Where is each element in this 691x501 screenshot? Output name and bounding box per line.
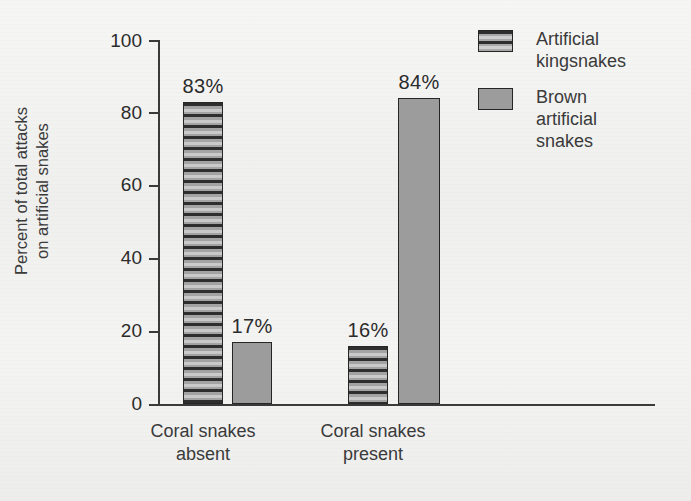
y-tick-label-40: 40: [88, 248, 142, 267]
legend-swatch-striped-icon: [478, 30, 513, 52]
y-axis-title: Percent of total attacks on artificial s…: [11, 0, 53, 401]
y-axis-title-line-2: on artificial snakes: [32, 0, 53, 401]
legend-label-brown-artificial-snakes: Brown artificial snakes: [536, 86, 597, 152]
x-group-label-present: Coral snakes present: [288, 420, 458, 466]
bar-brown-absent[interactable]: [232, 342, 272, 404]
bar-value-17: 17%: [212, 316, 292, 336]
bar-value-84: 84%: [379, 72, 459, 92]
y-tick-label-20: 20: [88, 321, 142, 340]
legend-item-artificial-kingsnakes[interactable]: Artificial kingsnakes: [478, 28, 688, 72]
legend-swatch-solid-icon: [478, 88, 513, 110]
y-tick-label-0: 0: [88, 394, 142, 413]
y-tick-mark-60: [149, 185, 158, 187]
bar-kingsnakes-present[interactable]: [348, 346, 388, 404]
y-tick-label-100: 100: [88, 31, 142, 50]
legend-label-artificial-kingsnakes: Artificial kingsnakes: [536, 28, 626, 72]
y-axis-title-line-1: Percent of total attacks: [11, 0, 32, 401]
y-axis-line: [158, 40, 160, 406]
y-tick-label-80: 80: [88, 103, 142, 122]
y-tick-label-60: 60: [88, 175, 142, 194]
bar-brown-present[interactable]: [398, 98, 440, 404]
y-tick-mark-40: [149, 258, 158, 260]
bar-kingsnakes-absent[interactable]: [183, 102, 223, 404]
legend: Artificial kingsnakes Brown artificial s…: [478, 28, 688, 166]
x-axis-line: [158, 404, 655, 406]
y-tick-mark-20: [149, 331, 158, 333]
bar-value-83: 83%: [163, 76, 243, 96]
y-tick-mark-80: [149, 112, 158, 114]
bar-value-16: 16%: [328, 320, 408, 340]
x-group-label-absent: Coral snakes absent: [118, 420, 288, 466]
legend-item-brown-artificial-snakes[interactable]: Brown artificial snakes: [478, 86, 688, 152]
y-tick-mark-100: [149, 40, 158, 42]
y-tick-mark-0: [149, 404, 158, 406]
chart-figure: 100 80 60 40 20 0 Percent of total attac…: [0, 0, 691, 501]
